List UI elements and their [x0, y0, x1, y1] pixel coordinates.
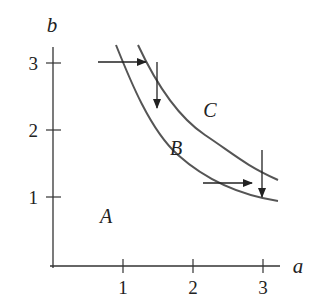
- y-tick-label-3: 3: [29, 53, 39, 74]
- region-label-c: C: [203, 99, 217, 121]
- x-tick-label-2: 2: [188, 277, 198, 298]
- y-tick-label-1: 1: [29, 187, 39, 208]
- y-axis-label: b: [47, 13, 58, 37]
- inner-curve: [116, 45, 278, 201]
- axes: [46, 47, 280, 273]
- x-axis-label: a: [293, 254, 304, 278]
- region-label-a: A: [98, 205, 113, 227]
- x-tick-label-3: 3: [258, 277, 268, 298]
- y-tick-label-2: 2: [29, 120, 39, 141]
- diagram-canvas: 1 2 3 3 2 1 b a A B C: [0, 0, 315, 307]
- region-label-b: B: [170, 137, 182, 159]
- x-tick-label-1: 1: [118, 277, 128, 298]
